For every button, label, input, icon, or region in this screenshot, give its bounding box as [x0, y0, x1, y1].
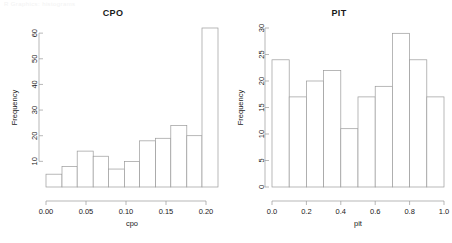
y-tick-label: 30 — [257, 24, 266, 32]
x-tick-label: 0.00 — [39, 207, 54, 216]
x-tick-label: 0.10 — [119, 207, 134, 216]
histogram-bar: 0.059-0.078: 12 — [93, 156, 108, 187]
y-axis: 102030405060 — [31, 29, 44, 166]
y-tick-label: 10 — [257, 130, 266, 138]
histogram-bar: 0.098-0.117: 10 — [124, 161, 139, 187]
histogram-bar: 0.176-0.195: 20 — [187, 136, 202, 187]
histogram-bar: 0.000-0.020: 5 — [46, 174, 62, 187]
x-tick-label: 0.15 — [159, 207, 174, 216]
histogram-bar: 0.7-0.8: 29 — [392, 33, 409, 187]
x-tick-label: 0.8 — [404, 207, 414, 216]
x-tick-label: 0.05 — [79, 207, 94, 216]
x-axis-title: cpo — [126, 219, 138, 228]
histogram-bar: 0.3-0.4: 22 — [324, 70, 341, 187]
histogram-bar: 0.039-0.059: 14 — [77, 151, 93, 187]
x-axis: 0.00.20.40.60.81.0 — [267, 201, 449, 216]
histogram-bar: 0.4-0.5: 11 — [341, 129, 358, 187]
histogram-bar: 0.137-0.156: 19 — [156, 138, 171, 187]
x-tick-label: 0.20 — [199, 207, 214, 216]
bars-group: 0.000-0.020: 50.020-0.039: 80.039-0.059:… — [46, 28, 218, 187]
y-tick-label: 20 — [257, 77, 266, 85]
x-axis: 0.000.050.100.150.20 — [39, 201, 214, 216]
histogram-cpo: 0.000-0.020: 50.020-0.039: 80.039-0.059:… — [0, 0, 226, 243]
chart-panel-cpo: CPO 0.000-0.020: 50.020-0.039: 80.039-0.… — [0, 0, 226, 243]
histogram-bar: 0.078-0.098: 7 — [108, 169, 124, 187]
y-axis: 051015202530 — [257, 24, 270, 189]
x-tick-label: 0.0 — [267, 207, 277, 216]
y-tick-label: 40 — [31, 80, 40, 88]
x-tick-label: 1.0 — [439, 207, 449, 216]
histogram-bar: 0.117-0.137: 18 — [140, 141, 156, 187]
histogram-bar: 0.9-1.0: 17 — [427, 97, 444, 187]
y-tick-label: 20 — [31, 132, 40, 140]
x-tick-label: 0.2 — [301, 207, 311, 216]
figure-root: R Graphics: histograms CPO 0.000-0.020: … — [0, 0, 452, 243]
histogram-bar: 0.1-0.2: 17 — [289, 97, 306, 187]
y-tick-label: 50 — [31, 55, 40, 63]
histogram-bar: 0.6-0.7: 19 — [375, 86, 392, 187]
y-tick-label: 25 — [257, 50, 266, 58]
histogram-bar: 0.5-0.6: 17 — [358, 97, 375, 187]
histogram-bar: 0.0-0.1: 24 — [272, 60, 289, 187]
y-axis-title: Frequency — [10, 90, 19, 126]
histogram-pit: 0.0-0.1: 240.1-0.2: 170.2-0.3: 200.3-0.4… — [226, 0, 452, 243]
histogram-bar: 0.8-0.9: 24 — [410, 60, 427, 187]
y-axis-title: Frequency — [236, 90, 245, 126]
y-tick-label: 10 — [31, 157, 40, 165]
bars-group: 0.0-0.1: 240.1-0.2: 170.2-0.3: 200.3-0.4… — [272, 33, 444, 187]
x-axis-title: pit — [354, 219, 363, 228]
histogram-bar: 0.020-0.039: 8 — [62, 166, 77, 187]
histogram-bar: 0.195-0.215: 62 — [202, 28, 218, 187]
x-tick-label: 0.4 — [336, 207, 346, 216]
y-tick-label: 30 — [31, 106, 40, 114]
y-tick-label: 15 — [257, 103, 266, 111]
x-tick-label: 0.6 — [370, 207, 380, 216]
chart-panel-pit: PIT 0.0-0.1: 240.1-0.2: 170.2-0.3: 200.3… — [226, 0, 452, 243]
y-tick-label: 5 — [257, 158, 266, 162]
y-tick-label: 60 — [31, 29, 40, 37]
histogram-bar: 0.156-0.176: 24 — [171, 125, 187, 187]
histogram-bar: 0.2-0.3: 20 — [306, 81, 323, 187]
y-tick-label: 0 — [257, 185, 266, 189]
